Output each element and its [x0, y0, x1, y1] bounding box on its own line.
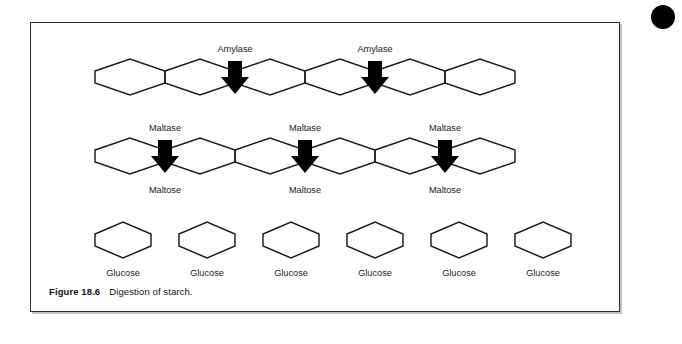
maltase-label-2: Maltase — [289, 123, 321, 133]
glucose-label-3: Glucose — [274, 268, 308, 278]
figure-root: Amylase Amylase Maltase Maltose — [0, 0, 682, 344]
glucose-unit-4: Glucose — [347, 222, 403, 278]
maltase-label-1: Maltase — [149, 123, 181, 133]
glucose-row: Glucose Glucose Glucose Glucose Glucose — [95, 222, 571, 278]
figure-caption: Figure 18.6Digestion of starch. — [49, 286, 193, 297]
figure-caption-text: Digestion of starch. — [109, 286, 192, 297]
maltose-label-2: Maltose — [289, 185, 321, 195]
glucose-unit-6: Glucose — [515, 222, 571, 278]
figure-caption-number: Figure 18.6 — [49, 286, 100, 297]
maltose-group-1: Maltase Maltose — [95, 123, 235, 195]
starch-row: Amylase Amylase — [95, 44, 515, 95]
glucose-unit-5: Glucose — [431, 222, 487, 278]
starch-digestion-diagram: Amylase Amylase Maltase Maltose — [31, 23, 621, 313]
amylase-label-2: Amylase — [357, 44, 392, 54]
maltose-group-3: Maltase Maltose — [375, 123, 515, 195]
bullet-dot-icon — [651, 5, 675, 29]
glucose-unit-2: Glucose — [179, 222, 235, 278]
amylase-label-1: Amylase — [217, 44, 252, 54]
starch-hexagon-6 — [445, 59, 515, 95]
maltose-group-2: Maltase Maltose — [235, 123, 375, 195]
starch-hexagon-1 — [95, 59, 165, 95]
maltose-label-1: Maltose — [149, 185, 181, 195]
glucose-unit-3: Glucose — [263, 222, 319, 278]
maltose-row: Maltase Maltose Maltase Maltose Maltas — [95, 123, 515, 195]
glucose-unit-1: Glucose — [95, 222, 151, 278]
glucose-label-6: Glucose — [526, 268, 560, 278]
glucose-label-5: Glucose — [442, 268, 476, 278]
glucose-label-4: Glucose — [358, 268, 392, 278]
glucose-label-2: Glucose — [190, 268, 224, 278]
maltose-label-3: Maltose — [429, 185, 461, 195]
maltase-label-3: Maltase — [429, 123, 461, 133]
glucose-label-1: Glucose — [106, 268, 140, 278]
figure-box: Amylase Amylase Maltase Maltose — [30, 22, 620, 312]
